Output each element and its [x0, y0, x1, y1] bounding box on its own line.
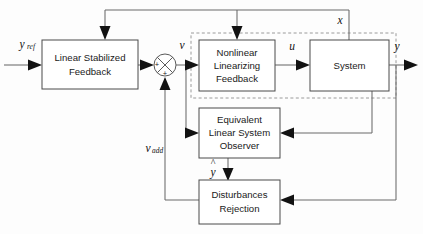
summing-junction-sign-bottom: +: [163, 69, 168, 78]
arrowhead-into-sum-left: [140, 60, 154, 71]
signal-label-y-hat: ^ y: [209, 157, 216, 179]
signal-label-y-output: y: [393, 40, 400, 53]
signal-v-add-base: v: [145, 142, 151, 154]
arrowhead-v-into-nonlinear: [185, 60, 199, 71]
block-disturbances-rejection[interactable]: Disturbances Rejection: [199, 180, 280, 224]
block-system[interactable]: System: [310, 40, 389, 91]
diagram-svg: Linear Stabilized Feedback Nonlinear Lin…: [0, 0, 423, 234]
block-disturbances-rejection-line-0: Disturbances: [212, 189, 268, 200]
arrowhead-yref-input: [28, 60, 42, 71]
block-equivalent-linear-system-observer[interactable]: Equivalent Linear System Observer: [199, 108, 280, 158]
signal-label-y-ref: y ref: [18, 38, 35, 51]
block-nonlinear-linearizing-feedback[interactable]: Nonlinear Linearizing Feedback: [199, 40, 275, 91]
arrowhead-y-into-disturbances: [280, 195, 294, 206]
signal-label-u: u: [289, 40, 295, 52]
arrowhead-v-into-observer: [185, 128, 199, 139]
block-disturbances-rejection-line-1: Rejection: [220, 203, 260, 214]
block-equivalent-linear-system-observer-line-2: Observer: [220, 140, 260, 151]
signal-label-v-add: v add: [145, 142, 163, 155]
arrowhead-x-into-lsf: [100, 26, 111, 40]
signal-y-hat-base: y: [209, 166, 216, 179]
block-nonlinear-linearizing-feedback-line-1: Linearizing: [214, 60, 260, 71]
block-nonlinear-linearizing-feedback-line-0: Nonlinear: [216, 47, 258, 58]
summing-junction[interactable]: + +: [154, 54, 176, 78]
arrowhead-vadd-into-sum: [160, 77, 171, 90]
arrowhead-y-output: [404, 60, 418, 71]
wire-group: [4, 10, 414, 200]
signal-v-add-sub: add: [152, 146, 163, 155]
block-diagram-canvas: Linear Stabilized Feedback Nonlinear Lin…: [0, 0, 423, 234]
block-linear-stabilized-feedback[interactable]: Linear Stabilized Feedback: [42, 40, 138, 89]
summing-junction-sign-left: +: [155, 60, 160, 69]
arrowhead-y-into-observer: [280, 128, 294, 139]
block-nonlinear-linearizing-feedback-line-2: Feedback: [216, 73, 258, 84]
block-linear-stabilized-feedback-rect[interactable]: [42, 40, 138, 89]
signal-y-ref-base: y: [18, 38, 25, 51]
block-system-line-0: System: [334, 60, 366, 71]
signal-label-v: v: [179, 39, 185, 51]
block-linear-stabilized-feedback-line-0: Linear Stabilized: [55, 52, 126, 63]
block-equivalent-linear-system-observer-line-0: Equivalent: [217, 114, 262, 125]
block-equivalent-linear-system-observer-line-1: Linear System: [209, 127, 270, 138]
signal-label-x: x: [336, 14, 343, 26]
arrowhead-yhat-into-disturbances: [223, 168, 234, 181]
arrowhead-u-into-system: [296, 60, 310, 71]
block-linear-stabilized-feedback-line-1: Feedback: [69, 66, 111, 77]
signal-y-ref-sub: ref: [27, 42, 36, 51]
